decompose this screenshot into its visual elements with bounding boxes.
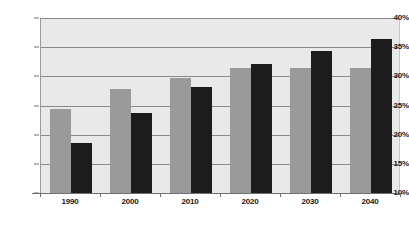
bar-series-dark-2040 <box>371 39 392 193</box>
y-tick-label: 40% <box>375 14 409 22</box>
bar-series-dark-2000 <box>131 113 152 193</box>
bar-series-gray-2030 <box>290 68 311 193</box>
bar-series-gray-1990 <box>50 109 71 193</box>
x-axis-line <box>32 193 404 194</box>
bar-series-dark-2010 <box>191 87 212 193</box>
y-tick-mark <box>34 18 39 19</box>
y-tick-label: 35% <box>375 43 409 51</box>
y-tick-mark <box>34 105 39 106</box>
y-tick-mark <box>34 134 39 135</box>
bar-series-dark-2020 <box>251 64 272 193</box>
bar-group <box>281 18 341 193</box>
x-tick-mark <box>40 193 41 197</box>
bar-group <box>101 18 161 193</box>
y-tick-mark <box>34 163 39 164</box>
x-tick-label: 1990 <box>62 198 79 206</box>
y-tick-label: 10% <box>375 189 409 197</box>
bar-group <box>41 18 101 193</box>
y-tick-mark <box>34 76 39 77</box>
y-tick-label: 15% <box>375 160 409 168</box>
bar-series-gray-2010 <box>170 78 191 194</box>
bar-group <box>161 18 221 193</box>
x-tick-mark <box>280 193 281 197</box>
x-tick-label: 2040 <box>362 198 379 206</box>
x-tick-label: 2000 <box>122 198 139 206</box>
bar-chart: 10%15%20%25%30%35%40%1990200020102020203… <box>0 0 409 228</box>
x-tick-mark <box>160 193 161 197</box>
y-tick-mark <box>34 193 39 194</box>
bar-series-dark-1990 <box>71 143 92 193</box>
bar-series-gray-2000 <box>110 89 131 193</box>
x-tick-label: 2030 <box>302 198 319 206</box>
y-tick-label: 20% <box>375 131 409 139</box>
x-tick-label: 2010 <box>182 198 199 206</box>
y-tick-label: 30% <box>375 72 409 80</box>
bar-group <box>221 18 281 193</box>
x-tick-mark <box>400 193 401 197</box>
bar-series-dark-2030 <box>311 51 332 193</box>
x-tick-mark <box>220 193 221 197</box>
plot-area <box>40 18 400 193</box>
bar-series-gray-2040 <box>350 68 371 193</box>
x-tick-label: 2020 <box>242 198 259 206</box>
y-tick-mark <box>34 47 39 48</box>
x-tick-mark <box>100 193 101 197</box>
y-tick-label: 25% <box>375 102 409 110</box>
bar-series-gray-2020 <box>230 68 251 193</box>
x-tick-mark <box>340 193 341 197</box>
